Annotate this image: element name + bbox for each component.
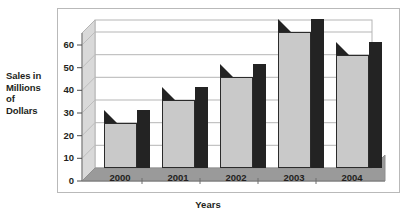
y-tick-label-20: 20	[48, 130, 74, 141]
bar-2003-top	[278, 19, 291, 32]
bar-2001-top	[162, 87, 175, 100]
y-tick-label-10: 10	[48, 152, 74, 163]
x-tick-label-2002: 2002	[214, 172, 258, 183]
bar-2003-face	[278, 32, 311, 168]
bar-2004-face	[336, 55, 369, 168]
y-tick-label-30: 30	[48, 107, 74, 118]
x-axis-title: Years	[0, 199, 416, 210]
bar-2002-side	[253, 64, 266, 168]
y-tick-label-40: 40	[48, 84, 74, 95]
bar-2000-top	[104, 110, 117, 123]
bar-2000-face	[104, 123, 137, 168]
bar-2002-face	[220, 77, 253, 168]
bar-2000-side	[137, 110, 150, 168]
x-tick-label-2000: 2000	[98, 172, 142, 183]
y-tick-label-60: 60	[48, 39, 74, 50]
bar-2004-top	[336, 42, 349, 55]
x-tick-label-2004: 2004	[330, 172, 374, 183]
x-tick-label-2001: 2001	[156, 172, 200, 183]
y-tick-label-50: 50	[48, 62, 74, 73]
y-tick-label-0: 0	[48, 175, 74, 186]
bar-2001-face	[162, 100, 195, 168]
bar-2003-side	[311, 19, 324, 168]
bar-2004-side	[369, 42, 382, 168]
bar-2001-side	[195, 87, 208, 168]
x-tick-label-2003: 2003	[272, 172, 316, 183]
bar-2002-top	[220, 64, 233, 77]
